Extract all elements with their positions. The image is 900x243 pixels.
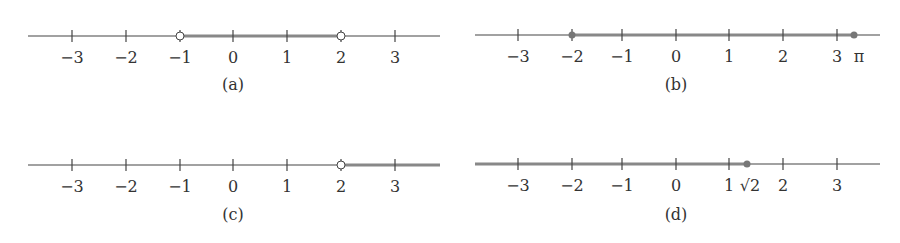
tick-label: −2 bbox=[560, 176, 584, 195]
panel-caption: (b) bbox=[665, 75, 688, 94]
tick-label: 3 bbox=[832, 176, 842, 195]
panel-d: −3−2−10123√2(d) bbox=[475, 158, 880, 224]
tick-label: 0 bbox=[228, 177, 238, 196]
tick-label: 0 bbox=[671, 176, 681, 195]
panel-a: −3−2−10123(a) bbox=[28, 30, 440, 94]
tick-label: −2 bbox=[114, 48, 138, 67]
panel-b: −3−2−10123π(b) bbox=[475, 29, 880, 94]
panel-caption: (a) bbox=[222, 75, 244, 94]
special-label: √2 bbox=[740, 176, 760, 195]
open-endpoint-icon bbox=[337, 161, 345, 169]
tick-label: 2 bbox=[336, 177, 346, 196]
open-endpoint-icon bbox=[176, 32, 184, 40]
tick-label: −2 bbox=[560, 47, 584, 66]
tick-label: 3 bbox=[832, 47, 842, 66]
tick-label: 2 bbox=[778, 176, 788, 195]
tick-label: 2 bbox=[336, 48, 346, 67]
tick-label: 3 bbox=[390, 177, 400, 196]
tick-label: −3 bbox=[506, 47, 530, 66]
closed-endpoint-icon bbox=[744, 161, 751, 168]
tick-label: −2 bbox=[114, 177, 138, 196]
tick-label: −3 bbox=[60, 48, 84, 67]
tick-label: 0 bbox=[671, 47, 681, 66]
tick-label: −1 bbox=[168, 177, 192, 196]
tick-label: 3 bbox=[390, 48, 400, 67]
tick-label: −3 bbox=[506, 176, 530, 195]
tick-label: 1 bbox=[282, 177, 292, 196]
tick-label: 1 bbox=[724, 47, 734, 66]
closed-endpoint-icon bbox=[851, 32, 858, 39]
panel-c: −3−2−10123(c) bbox=[28, 159, 440, 224]
tick-label: 1 bbox=[724, 176, 734, 195]
tick-label: 1 bbox=[282, 48, 292, 67]
number-line-figure: −3−2−10123(a)−3−2−10123π(b)−3−2−10123(c)… bbox=[0, 0, 900, 243]
tick-label: 2 bbox=[778, 47, 788, 66]
tick-label: −1 bbox=[168, 48, 192, 67]
panel-caption: (c) bbox=[222, 205, 243, 224]
closed-endpoint-icon bbox=[569, 32, 576, 39]
tick-label: −3 bbox=[60, 177, 84, 196]
special-label: π bbox=[854, 47, 865, 66]
tick-label: −1 bbox=[610, 47, 634, 66]
tick-label: −1 bbox=[610, 176, 634, 195]
panel-caption: (d) bbox=[665, 205, 688, 224]
open-endpoint-icon bbox=[337, 32, 345, 40]
tick-label: 0 bbox=[228, 48, 238, 67]
